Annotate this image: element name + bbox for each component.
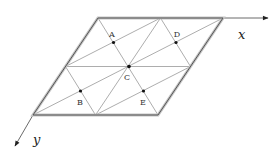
label-d: D <box>174 30 180 39</box>
point-d <box>174 41 177 44</box>
lattice-diagram: A D C B E x y <box>0 0 280 157</box>
label-b: B <box>77 98 83 107</box>
point-c <box>127 65 131 69</box>
x-axis-label: x <box>238 27 246 42</box>
label-c: C <box>124 73 130 82</box>
point-a <box>112 41 115 44</box>
point-b <box>79 89 82 92</box>
label-e: E <box>140 98 146 107</box>
label-a: A <box>108 30 115 39</box>
y-axis-label: y <box>32 132 41 147</box>
point-e <box>142 89 145 92</box>
y-axis <box>15 115 33 146</box>
